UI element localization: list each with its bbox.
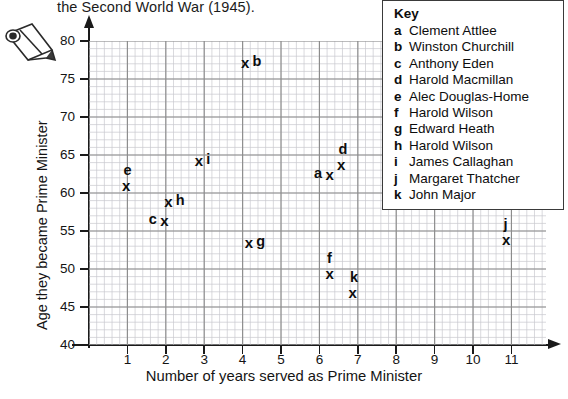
legend-item-f[interactable]: fHarold Wilson [383, 105, 563, 121]
legend-item-name-h: Harold Wilson [409, 138, 493, 154]
y-tick-label-75: 75 [47, 71, 75, 86]
data-point-label-d: d [338, 142, 347, 157]
y-tick-label-40: 40 [47, 337, 75, 352]
y-axis-arrow [84, 15, 94, 28]
y-tick-60 [80, 192, 89, 194]
data-point-marker-k: x [348, 285, 356, 300]
data-point-label-j: j [504, 217, 508, 232]
data-point-marker-h: x [164, 194, 172, 209]
data-point-label-i: i [206, 152, 210, 167]
x-tick-label-4: 4 [232, 352, 254, 367]
y-tick-label-45: 45 [47, 299, 75, 314]
legend-item-name-j: Margaret Thatcher [409, 171, 520, 187]
legend-item-name-d: Harold Macmillan [409, 72, 513, 88]
data-point-marker-i: x [195, 153, 203, 168]
y-tick-80 [80, 40, 89, 42]
legend-item-key-f: f [394, 105, 409, 121]
y-tick-40 [80, 344, 89, 346]
y-tick-65 [80, 154, 89, 156]
legend-rows: aClement AttleebWinston ChurchillcAnthon… [383, 23, 563, 203]
data-point-label-h: h [176, 193, 185, 208]
data-point-label-c: c [149, 212, 157, 227]
legend-item-key-j: j [394, 171, 409, 187]
x-tick-label-8: 8 [385, 352, 407, 367]
legend-item-key-d: d [394, 72, 409, 88]
y-tick-label-60: 60 [47, 185, 75, 200]
legend-item-name-c: Anthony Eden [409, 56, 494, 72]
legend-item-name-i: James Callaghan [409, 154, 513, 170]
legend-item-key-k: k [394, 187, 409, 203]
data-point-marker-a: x [325, 167, 333, 182]
y-tick-label-65: 65 [47, 147, 75, 162]
legend-item-name-b: Winston Churchill [409, 39, 514, 55]
data-point-marker-j: x [502, 232, 510, 247]
legend-title: Key [383, 6, 563, 23]
x-tick-label-1: 1 [116, 352, 138, 367]
legend-item-key-h: h [394, 138, 409, 154]
legend-item-e[interactable]: eAlec Douglas-Home [383, 89, 563, 105]
y-tick-label-50: 50 [47, 261, 75, 276]
legend-item-key-g: g [394, 121, 409, 137]
data-point-label-g: g [256, 234, 265, 249]
y-tick-50 [80, 268, 89, 270]
legend-item-d[interactable]: dHarold Macmillan [383, 72, 563, 88]
y-tick-label-70: 70 [47, 109, 75, 124]
y-tick-55 [80, 230, 89, 232]
data-point-label-k: k [350, 270, 358, 285]
legend-item-b[interactable]: bWinston Churchill [383, 39, 563, 55]
x-tick-label-3: 3 [193, 352, 215, 367]
x-tick-label-6: 6 [308, 352, 330, 367]
y-tick-label-55: 55 [47, 223, 75, 238]
data-point-marker-c: x [160, 213, 168, 228]
x-tick-label-7: 7 [347, 352, 369, 367]
y-axis-title: Age they became Prime Minister [34, 120, 50, 330]
data-point-marker-g: x [245, 235, 253, 250]
x-tick-label-11: 11 [500, 352, 522, 367]
data-point-marker-e: x [122, 178, 130, 193]
legend-item-name-f: Harold Wilson [409, 105, 493, 121]
legend-item-key-i: i [394, 154, 409, 170]
data-point-marker-b: x [241, 55, 249, 70]
x-tick-label-9: 9 [424, 352, 446, 367]
page-header-text: the Second World War (1945). [57, 0, 255, 15]
y-tick-75 [80, 78, 89, 80]
legend-item-name-a: Clement Attlee [409, 23, 497, 39]
data-point-label-b: b [252, 54, 261, 69]
data-point-label-a: a [314, 166, 322, 181]
legend-item-g[interactable]: gEdward Heath [383, 121, 563, 137]
legend-item-key-e: e [394, 89, 409, 105]
data-point-marker-f: x [325, 266, 333, 281]
y-tick-45 [80, 306, 89, 308]
legend-item-key-c: c [394, 56, 409, 72]
x-tick-label-10: 10 [462, 352, 484, 367]
data-point-marker-d: x [337, 157, 345, 172]
x-tick-label-2: 2 [155, 352, 177, 367]
x-tick-label-5: 5 [270, 352, 292, 367]
x-axis-title: Number of years served as Prime Minister [0, 368, 568, 384]
y-tick-label-80: 80 [47, 33, 75, 48]
legend-item-name-e: Alec Douglas-Home [409, 89, 529, 105]
data-point-label-e: e [123, 163, 131, 178]
legend-item-key-b: b [394, 39, 409, 55]
legend-item-name-k: John Major [409, 187, 476, 203]
legend-item-c[interactable]: cAnthony Eden [383, 56, 563, 72]
legend-item-h[interactable]: hHarold Wilson [383, 138, 563, 154]
legend-item-key-a: a [394, 23, 409, 39]
x-axis-arrow [548, 339, 561, 349]
legend-item-i[interactable]: iJames Callaghan [383, 154, 563, 170]
legend-item-name-g: Edward Heath [409, 121, 495, 137]
y-tick-70 [80, 116, 89, 118]
legend-item-j[interactable]: jMargaret Thatcher [383, 171, 563, 187]
legend-item-k[interactable]: kJohn Major [383, 187, 563, 203]
data-point-label-f: f [327, 251, 332, 266]
legend-key-box: Key aClement AttleebWinston ChurchillcAn… [382, 0, 564, 210]
legend-item-a[interactable]: aClement Attlee [383, 23, 563, 39]
